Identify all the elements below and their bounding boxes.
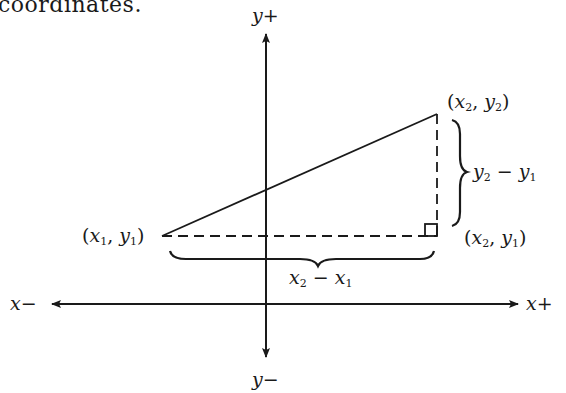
horizontal-brace xyxy=(170,251,434,266)
x-plus-label: x+ xyxy=(526,294,553,313)
y-minus-label: y− xyxy=(252,370,279,389)
hypotenuse-line xyxy=(162,114,437,236)
x-minus-label: x− xyxy=(10,294,37,313)
right-angle-marker xyxy=(425,224,437,236)
coordinate-diagram xyxy=(0,0,566,393)
point-x1-y1-label: (x1, y1) xyxy=(82,226,144,247)
delta-y-label: y2 − y1 xyxy=(473,162,536,183)
delta-x-label: x2 − x1 xyxy=(289,268,352,289)
point-x2-y2-label: (x2, y2) xyxy=(447,92,509,113)
vertical-brace xyxy=(452,120,467,226)
point-x2-y1-label: (x2, y1) xyxy=(464,228,526,249)
y-plus-label: y+ xyxy=(252,6,279,25)
